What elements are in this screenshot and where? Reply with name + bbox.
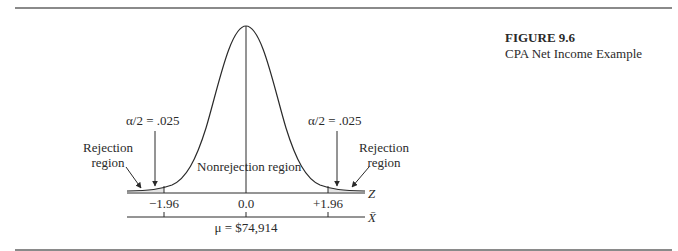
rejection-right-label-line2: region — [344, 155, 424, 170]
z-axis-label: Z — [368, 186, 375, 201]
tick-label-center: 0.0 — [221, 196, 271, 211]
mean-label: μ = $74,914 — [196, 220, 296, 235]
alpha-right-label: α/2 = .025 — [308, 113, 362, 128]
figure-title: CPA Net Income Example — [505, 46, 642, 62]
rejection-left-arrow — [126, 167, 141, 188]
nonrejection-label: Nonrejection region — [197, 159, 301, 174]
tick-label-right: +1.96 — [303, 196, 353, 211]
alpha-left-label: α/2 = .025 — [126, 113, 180, 128]
xbar-axis-label: X̄ — [368, 210, 376, 225]
bottom-rule — [15, 249, 672, 251]
rejection-left-label-line1: Rejection — [68, 140, 148, 155]
figure-number: FIGURE 9.6 — [505, 30, 642, 46]
rejection-right-label-line1: Rejection — [344, 140, 424, 155]
tick-label-left: −1.96 — [139, 196, 189, 211]
rejection-right-arrow — [352, 167, 369, 187]
rejection-left-label-line2: region — [68, 155, 148, 170]
figure-caption: FIGURE 9.6 CPA Net Income Example — [505, 30, 642, 62]
